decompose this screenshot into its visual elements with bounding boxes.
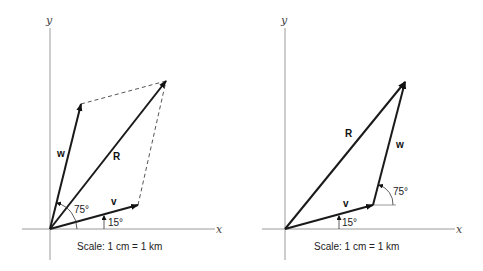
scale-label: Scale: 1 cm = 1 km xyxy=(314,241,399,252)
angle-arc-75 xyxy=(379,185,393,205)
y-axis-label: y xyxy=(280,14,288,27)
label-v: v xyxy=(343,198,349,209)
label-v: v xyxy=(111,196,117,207)
left-diagram: y x w R v 75° 15° Scale: 1 cm = 1 km xyxy=(22,14,223,260)
label-r: R xyxy=(345,128,353,139)
parallelogram-top-edge xyxy=(81,81,166,104)
label-angle-75: 75° xyxy=(74,204,89,215)
x-axis-label: x xyxy=(216,223,223,236)
vector-v xyxy=(50,205,138,229)
label-angle-75: 75° xyxy=(393,186,408,197)
x-axis-label: x xyxy=(456,223,463,236)
label-w: w xyxy=(395,139,404,150)
right-diagram: y x R w v 75° 15° Scale: 1 cm = 1 km xyxy=(262,14,463,260)
label-r: R xyxy=(113,151,121,162)
vector-addition-figure: y x w R v 75° 15° Scale: 1 cm = 1 km y x… xyxy=(0,0,483,271)
y-axis-label: y xyxy=(45,14,53,27)
vector-v xyxy=(285,205,373,229)
scale-label: Scale: 1 cm = 1 km xyxy=(77,241,162,252)
label-w: w xyxy=(56,148,65,159)
label-angle-15: 15° xyxy=(108,217,123,228)
label-angle-15: 15° xyxy=(342,217,357,228)
